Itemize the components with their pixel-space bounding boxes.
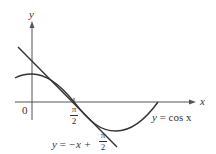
tangent-frac-denominator: 2 [101,143,106,152]
tangent-label-fraction: π 2 [99,131,107,152]
x-axis-label: x [200,96,205,107]
cosine-label-eq: = [160,111,166,123]
tick-numerator: π [72,105,77,114]
tick-denominator: 2 [72,117,77,126]
cosine-label-lhs: y [152,111,157,123]
cosine-label: y = cos x [152,112,192,123]
tangent-frac-numerator: π [101,131,106,140]
cosine-label-rhs: cos x [169,111,192,123]
tangent-label-rhs: −x + [69,138,91,150]
y-axis-label: y [29,9,34,20]
origin-label: 0 [22,105,28,116]
y-axis-arrow-icon [30,21,35,28]
tangent-label-eq: = [60,138,66,150]
graph-canvas [0,0,216,154]
tangent-label: y = −x + [52,139,91,150]
pi-over-2-tick-label: π 2 [70,105,78,126]
x-axis-arrow-icon [189,100,196,105]
tangent-label-lhs: y [52,138,57,150]
